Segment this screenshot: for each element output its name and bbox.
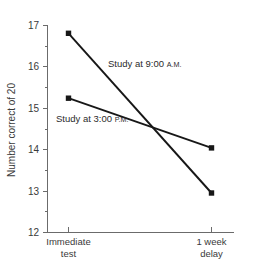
x-tick-label-immediate-line1: Immediate — [46, 236, 90, 247]
series-label-study-9am: Study at 9:00 A.M. — [108, 58, 181, 69]
y-tick-label: 15 — [28, 103, 40, 114]
y-tick-label: 14 — [28, 144, 40, 155]
x-axis-ticks — [69, 227, 212, 233]
series-study-3pm-point-0 — [66, 96, 71, 101]
y-tick-label: 12 — [28, 227, 40, 238]
x-tick-label-immediate-line2: test — [61, 248, 77, 259]
y-tick-label: 17 — [28, 20, 40, 31]
y-tick-label: 13 — [28, 186, 40, 197]
series-study-3pm-point-1 — [209, 145, 214, 150]
series-study-9am-point-0 — [66, 31, 71, 36]
x-tick-label-delay-line1: 1 week — [196, 236, 226, 247]
series-label-study-9am-main: Study at 9:00 — [108, 58, 167, 69]
series-label-study-3pm-main: Study at 3:00 — [56, 113, 115, 124]
line-chart: Number correct of 20 17 16 15 14 1 — [0, 0, 253, 265]
series-label-study-9am-smallcaps: A.M. — [167, 60, 182, 69]
x-axis-category-labels: Immediate test 1 week delay — [46, 236, 226, 259]
series-label-study-3pm-smallcaps: P.M. — [115, 115, 129, 124]
x-tick-label-delay-line2: delay — [200, 248, 223, 259]
y-tick-label: 16 — [28, 61, 40, 72]
chart-figure: Number correct of 20 17 16 15 14 1 — [0, 0, 253, 265]
series-label-study-3pm: Study at 3:00 P.M. — [56, 113, 128, 124]
series-study-9am-point-1 — [209, 190, 214, 195]
y-axis-tick-labels: 17 16 15 14 13 12 — [28, 20, 40, 238]
y-axis-title: Number correct of 20 — [6, 83, 17, 177]
